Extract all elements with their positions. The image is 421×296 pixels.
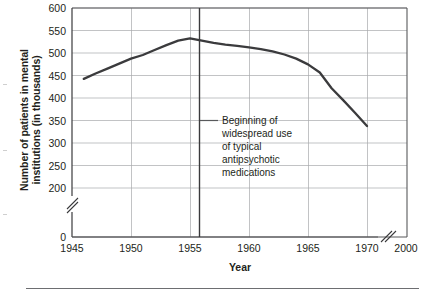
y-tick-350: 350 [48,115,66,127]
x-axis-title: Year [229,261,251,273]
x-tick-1965: 1965 [296,242,320,254]
y-tick-labels: 600 550 500 450 400 350 300 250 200 0 [48,2,66,243]
x-axis-break [72,231,396,242]
annotation-text: Beginning of widespread use of typical a… [221,115,292,178]
y-tick-400: 400 [48,92,66,104]
annotation-line-4: antipsychotic [222,154,280,165]
y-tick-300: 300 [48,137,66,149]
x-tick-labels: 1945 1950 1955 1960 1965 1970 2000 [60,242,418,254]
annotation-line-2: widespread use [221,128,292,139]
chart-figure: Number of patients in mental institution… [0,0,421,296]
y-tick-600: 600 [48,2,66,14]
data-line-patients [84,38,367,126]
y-axis [67,8,78,237]
x-tick-1955: 1955 [178,242,202,254]
y-tick-450: 450 [48,70,66,82]
x-tick-1960: 1960 [237,242,261,254]
annotation-line-1: Beginning of [222,115,278,126]
annotation-line-5: medications [222,167,275,178]
annotation-line-3: of typical [222,141,261,152]
y-tick-500: 500 [48,47,66,59]
page-divider-rule [26,288,419,289]
x-tick-1970: 1970 [355,242,379,254]
x-tick-1950: 1950 [119,242,143,254]
plot-svg: 600 550 500 450 400 350 300 250 200 0 19… [0,0,421,296]
y-tick-550: 550 [48,25,66,37]
x-tick-1945: 1945 [60,242,84,254]
y-tick-250: 250 [48,160,66,172]
x-tick-2000: 2000 [394,242,418,254]
y-tick-200: 200 [48,182,66,194]
